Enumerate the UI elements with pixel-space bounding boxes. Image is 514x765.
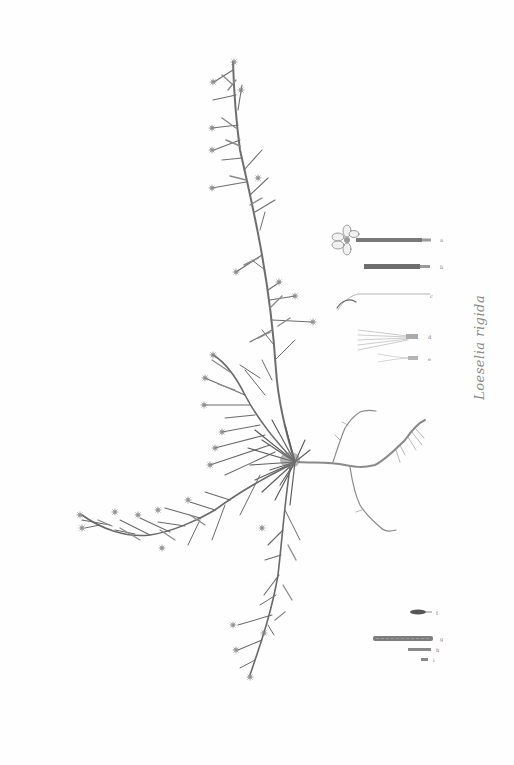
- svg-text:c: c: [430, 293, 433, 299]
- detail-figure-g: g: [373, 636, 444, 643]
- svg-text:a: a: [440, 237, 443, 243]
- main-stem-upper: [212, 62, 312, 462]
- detail-figure-d: d: [358, 330, 432, 350]
- flower-heads: [77, 59, 317, 681]
- botanical-plate: a b c d e: [0, 0, 514, 765]
- detail-figure-a: a: [332, 225, 443, 255]
- detail-figure-i: i: [421, 657, 435, 663]
- root-system: [298, 410, 425, 531]
- detail-figures-lower: f g h i: [373, 610, 444, 664]
- svg-text:f: f: [436, 610, 439, 616]
- svg-text:i: i: [433, 657, 435, 663]
- svg-text:d: d: [428, 334, 432, 340]
- species-caption: Loeselia rigida: [472, 295, 487, 400]
- detail-figure-b: b: [364, 264, 443, 270]
- branch-left-long: [82, 465, 290, 545]
- detail-figure-h: h: [408, 647, 440, 653]
- svg-text:b: b: [440, 264, 443, 270]
- detail-figure-c: c: [337, 293, 433, 310]
- svg-text:h: h: [436, 647, 440, 653]
- detail-figure-f: f: [410, 610, 439, 617]
- svg-text:e: e: [428, 356, 431, 362]
- svg-text:g: g: [440, 636, 444, 643]
- plant-illustration: a b c d e: [0, 0, 514, 765]
- detail-figure-e: e: [378, 354, 431, 362]
- detail-figures-upper: a b c d e: [332, 225, 443, 362]
